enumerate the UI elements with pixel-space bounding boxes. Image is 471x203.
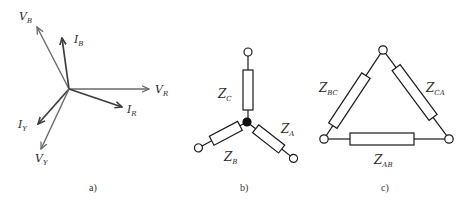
label-zc: ZC xyxy=(217,87,232,103)
caption-a: a) xyxy=(89,182,97,194)
label-zb: ZB xyxy=(223,150,238,166)
three-phase-figure: VB IB VR IR IY VY a) ZC ZA Z xyxy=(0,0,471,203)
terminal-bottom-left xyxy=(320,135,328,143)
label-zbc: ZBC xyxy=(318,81,339,97)
impedance-zbc xyxy=(329,73,370,129)
label-zca: ZCA xyxy=(425,81,445,97)
terminal-bottom-right xyxy=(445,135,453,143)
label-iy: IY xyxy=(17,118,28,133)
phasor-iy xyxy=(38,89,69,124)
label-ib: IB xyxy=(73,33,84,48)
impedance-zab xyxy=(350,133,414,145)
label-zab: ZAB xyxy=(373,153,393,169)
impedance-zb xyxy=(209,121,242,145)
caption-b: b) xyxy=(240,182,248,194)
wire-ca-upper xyxy=(385,52,396,67)
delta-connection xyxy=(320,46,453,145)
terminal-a xyxy=(288,153,299,164)
wire-b-outer xyxy=(202,141,212,146)
terminal-b xyxy=(193,142,204,153)
wire-bc-upper xyxy=(366,53,381,76)
impedance-za xyxy=(253,125,285,153)
phasor-diagram: VB IB VR IR IY VY a) xyxy=(17,10,169,194)
caption-c: c) xyxy=(381,182,389,194)
label-vy: VY xyxy=(35,152,49,167)
label-za: ZA xyxy=(280,122,294,138)
phasor-vy xyxy=(41,89,69,149)
terminal-c xyxy=(244,48,252,56)
phasor-ir xyxy=(69,89,122,107)
terminal-top xyxy=(379,46,387,54)
star-labels: ZC ZA ZB b) xyxy=(217,87,294,194)
label-ir: IR xyxy=(126,103,137,118)
label-vr: VR xyxy=(155,83,169,98)
label-vb: VB xyxy=(19,10,32,25)
wire-bc-lower xyxy=(326,126,333,137)
neutral-node xyxy=(243,118,251,126)
star-connection xyxy=(193,48,300,165)
wire-ca-lower xyxy=(433,117,447,136)
impedance-zc xyxy=(243,70,253,110)
wire-a-outer xyxy=(282,149,291,156)
